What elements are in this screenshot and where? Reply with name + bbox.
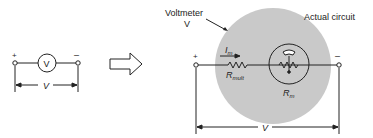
double-arrow-right-icon bbox=[110, 53, 142, 75]
right-dimension-label: V bbox=[262, 123, 269, 133]
left-minus: – bbox=[74, 50, 79, 60]
voltmeter-letter: V bbox=[44, 59, 50, 69]
right-terminal-minus bbox=[337, 63, 341, 67]
actual-circuit-label: Actual circuit bbox=[304, 12, 356, 22]
meter-dial-icon bbox=[283, 50, 295, 55]
left-plus: + bbox=[12, 51, 17, 60]
voltmeter-diagram: + – V V Voltmeter V Actual circuit + – bbox=[0, 0, 373, 138]
left-terminal-minus bbox=[76, 61, 80, 65]
right-plus: + bbox=[193, 52, 198, 61]
right-terminal-plus bbox=[194, 63, 198, 67]
voltmeter-label-v: V bbox=[184, 19, 190, 29]
voltmeter-label: Voltmeter bbox=[165, 8, 203, 18]
right-minus: – bbox=[335, 51, 340, 61]
left-terminal-plus bbox=[13, 61, 17, 65]
right-circuit: Voltmeter V Actual circuit + – bbox=[165, 8, 356, 134]
left-dimension-label: V bbox=[43, 81, 50, 91]
left-circuit: + – V V bbox=[12, 50, 80, 92]
